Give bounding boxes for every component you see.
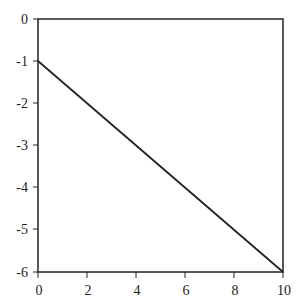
x-tick-label: 2 bbox=[85, 283, 92, 298]
y-tick-label: -4 bbox=[16, 180, 28, 195]
y-tick-label: -2 bbox=[16, 96, 28, 111]
y-tick-label: -3 bbox=[16, 138, 28, 153]
y-tick-label: -6 bbox=[16, 265, 28, 280]
x-tick-label: 10 bbox=[277, 283, 291, 298]
plot-frame bbox=[38, 19, 283, 272]
x-tick-label: 0 bbox=[36, 283, 43, 298]
data-line bbox=[38, 61, 283, 272]
y-tick-label: -1 bbox=[16, 54, 28, 69]
x-tick-label: 8 bbox=[232, 283, 239, 298]
y-tick-label: 0 bbox=[21, 12, 28, 27]
line-chart: 0 -1 -2 -3 -4 -5 -6 0 2 4 6 8 10 bbox=[0, 0, 300, 308]
y-tick-label: -5 bbox=[16, 222, 28, 237]
x-tick-label: 6 bbox=[183, 283, 190, 298]
x-axis: 0 2 4 6 8 10 bbox=[36, 272, 292, 298]
x-tick-label: 4 bbox=[134, 283, 141, 298]
y-axis: 0 -1 -2 -3 -4 -5 -6 bbox=[16, 12, 38, 280]
